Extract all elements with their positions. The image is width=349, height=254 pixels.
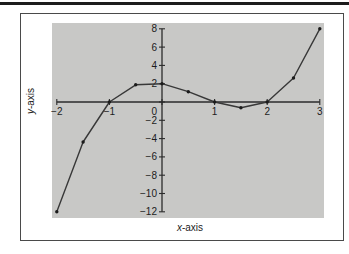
x-tick-label: 2	[264, 106, 270, 117]
page-rule	[0, 2, 349, 5]
x-axis-title: x-axis	[160, 222, 220, 234]
y-tick-label: 6	[151, 42, 157, 53]
data-point	[108, 100, 111, 103]
x-tick-label: −2	[51, 106, 63, 117]
chart-canvas: −2−11238642−2−4−6−8−10−120	[21, 14, 343, 240]
data-point	[134, 83, 137, 86]
origin-label: 0	[151, 106, 157, 117]
data-line	[57, 29, 320, 212]
y-tick-label: −6	[146, 151, 158, 162]
x-tick-label: 3	[317, 106, 323, 117]
data-point	[81, 140, 84, 143]
page: { "page": {"background": "#ffffff", "rul…	[0, 0, 349, 254]
y-tick-label: −12	[140, 206, 157, 217]
data-point	[213, 100, 216, 103]
y-tick-label: −8	[146, 170, 158, 181]
x-tick-label: 1	[212, 106, 218, 117]
data-point	[318, 27, 321, 30]
data-point	[160, 82, 163, 85]
data-point	[239, 106, 242, 109]
y-tick-label: −4	[146, 133, 158, 144]
y-axis-title: y-axis	[25, 79, 37, 123]
chart-frame: −2−11238642−2−4−6−8−10−120 x-axis y-axis	[20, 13, 344, 241]
y-tick-label: 4	[151, 60, 157, 71]
data-point	[187, 90, 190, 93]
data-point	[292, 76, 295, 79]
data-point	[55, 210, 58, 213]
y-tick-label: 8	[151, 23, 157, 34]
data-point	[266, 100, 269, 103]
y-tick-label: −10	[140, 188, 157, 199]
